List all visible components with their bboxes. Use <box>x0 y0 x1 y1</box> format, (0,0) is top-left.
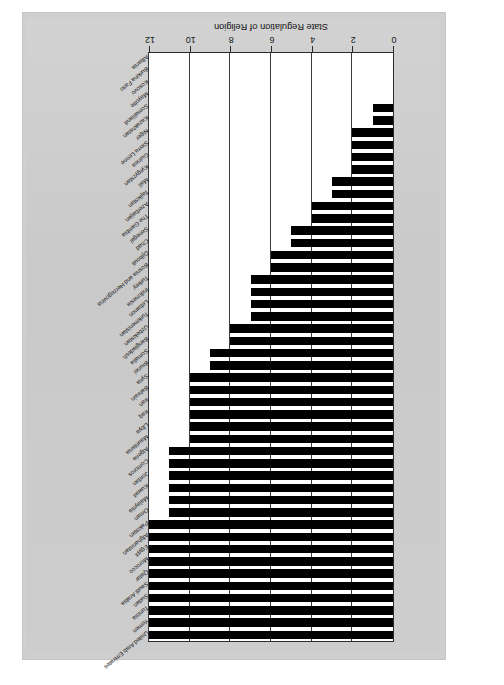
bar-row <box>149 202 393 210</box>
bar-row <box>149 459 393 467</box>
bar-chart: United Arab EmiratesYemenTunisiaSudanSau… <box>26 16 426 652</box>
bar-row <box>149 251 393 259</box>
bar <box>190 373 393 381</box>
bar-row <box>149 263 393 271</box>
axis-tick-label: 4 <box>310 35 315 45</box>
bar <box>352 128 393 136</box>
bar <box>190 435 393 443</box>
bar-row <box>149 226 393 234</box>
bar <box>169 447 393 455</box>
bar <box>271 251 393 259</box>
bar <box>149 606 393 614</box>
bar <box>230 337 393 345</box>
axis-tick <box>352 46 353 52</box>
bar <box>291 226 393 234</box>
bar-row <box>149 496 393 504</box>
bar-row <box>149 190 393 198</box>
category-labels: United Arab EmiratesYemenTunisiaSudanSau… <box>26 52 150 642</box>
bar-row <box>149 520 393 528</box>
bar <box>332 177 393 185</box>
axis-tick <box>271 46 272 52</box>
bar <box>149 582 393 590</box>
bar <box>210 349 393 357</box>
bar-row <box>149 508 393 516</box>
bar <box>190 410 393 418</box>
bar-row <box>149 337 393 345</box>
bar-row <box>149 618 393 626</box>
bar-row <box>149 569 393 577</box>
axis-title: State Regulation of Religion <box>148 22 394 32</box>
bar <box>251 312 393 320</box>
bar <box>149 631 393 639</box>
bar-row <box>149 153 393 161</box>
bar <box>149 533 393 541</box>
bar-row <box>149 104 393 112</box>
bar <box>149 545 393 553</box>
bars-group <box>149 53 393 641</box>
bar <box>190 422 393 430</box>
bar-row <box>149 324 393 332</box>
bar <box>312 214 393 222</box>
bar-row <box>149 594 393 602</box>
category-label: Iraq <box>138 409 150 421</box>
category-label: Libya <box>135 421 150 435</box>
axis-tick <box>149 46 150 52</box>
bar-row <box>149 386 393 394</box>
axis-tick-label: 8 <box>229 35 234 45</box>
bar-row <box>149 545 393 553</box>
bar-row <box>149 79 393 87</box>
bar-row <box>149 214 393 222</box>
bar-row <box>149 557 393 565</box>
bar <box>373 104 393 112</box>
bar-row <box>149 447 393 455</box>
bar <box>373 116 393 124</box>
bar-row <box>149 631 393 639</box>
bar-row <box>149 165 393 173</box>
bar <box>251 300 393 308</box>
bar <box>149 557 393 565</box>
bar-row <box>149 312 393 320</box>
figure-caption: Figure 32.7 Quantity of government regul… <box>490 677 502 685</box>
bar-row <box>149 410 393 418</box>
value-axis: 024681012 State Regulation of Religion <box>148 16 394 52</box>
category-label: United Arab Emirates <box>103 630 150 671</box>
bar-row <box>149 92 393 100</box>
bar-row <box>149 116 393 124</box>
bar <box>352 153 393 161</box>
bar <box>210 361 393 369</box>
axis-tick-label: 12 <box>145 35 155 45</box>
axis-tick <box>393 46 394 52</box>
bar <box>169 496 393 504</box>
bar-row <box>149 349 393 357</box>
axis-tick <box>312 46 313 52</box>
bar <box>251 288 393 296</box>
bar-row <box>149 141 393 149</box>
bar-row <box>149 582 393 590</box>
bar-row <box>149 435 393 443</box>
bar <box>169 459 393 467</box>
bar <box>352 165 393 173</box>
bar-row <box>149 128 393 136</box>
bar <box>312 202 393 210</box>
bar <box>169 471 393 479</box>
axis-tick-label: 2 <box>351 35 356 45</box>
bar-row <box>149 300 393 308</box>
bar <box>149 520 393 528</box>
axis-tick <box>230 46 231 52</box>
bar <box>230 324 393 332</box>
axis-tick-label: 6 <box>269 35 274 45</box>
bar <box>149 618 393 626</box>
figure-page: United Arab EmiratesYemenTunisiaSudanSau… <box>0 0 504 685</box>
bar-row <box>149 484 393 492</box>
axis-tick <box>190 46 191 52</box>
bar-row <box>149 422 393 430</box>
bar <box>271 263 393 271</box>
bar-row <box>149 606 393 614</box>
bar-row <box>149 361 393 369</box>
bar <box>169 508 393 516</box>
plot-area <box>148 52 394 642</box>
bar-row <box>149 55 393 63</box>
bar <box>291 239 393 247</box>
bar-row <box>149 471 393 479</box>
bar <box>352 141 393 149</box>
